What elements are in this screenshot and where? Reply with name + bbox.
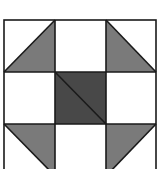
quilt-block-diagram xyxy=(0,0,166,169)
